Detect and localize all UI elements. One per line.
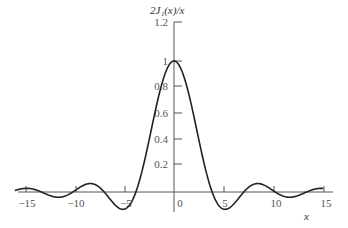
x-axis-title: x: [303, 210, 309, 222]
x-tick-label: 5: [222, 197, 228, 209]
y-tick-label: 1.2: [154, 16, 168, 28]
x-tick-label: 10: [271, 197, 283, 209]
chart-canvas: 2J₁(x)/x 1.2 1 0.8 0.6 0.4 0.2 −15 −10 −…: [0, 0, 348, 228]
x-tick-label: −10: [67, 197, 85, 209]
y-tick-label: 0.2: [154, 158, 168, 170]
bessel-curve: [15, 61, 323, 209]
y-tick-label: 1: [163, 55, 169, 67]
x-tick-label: −15: [18, 197, 36, 209]
y-ticks: 1.2 1 0.8 0.6 0.4 0.2: [154, 16, 182, 170]
x-ticks: −15 −10 −5 0 5 10 15 x: [18, 186, 332, 222]
x-tick-label: 0: [177, 197, 183, 209]
x-tick-label: 15: [321, 197, 333, 209]
y-tick-label: 0.4: [154, 133, 168, 145]
